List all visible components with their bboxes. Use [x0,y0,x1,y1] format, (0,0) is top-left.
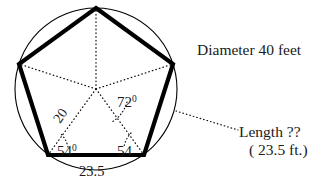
radius-line-upper-left [19,64,96,89]
geometry-figure: 720 540 54 23.5 20 Diameter 40 feet Leng… [0,0,325,182]
base-angle-right-label: 54 [117,143,133,159]
length-leader-line [176,111,238,130]
pentagon-circle-diagram: 720 540 54 23.5 20 Diameter 40 feet Leng… [0,0,325,182]
diameter-annotation: Diameter 40 feet [197,41,302,58]
radius-line-upper-right [96,64,173,89]
length-annotation: Length ?? [239,123,301,140]
base-side-label: 23.5 [79,163,104,179]
central-angle-label: 720 [117,94,137,110]
length-value-annotation: ( 23.5 ft.) [249,141,308,159]
radius-label: 20 [50,106,70,126]
